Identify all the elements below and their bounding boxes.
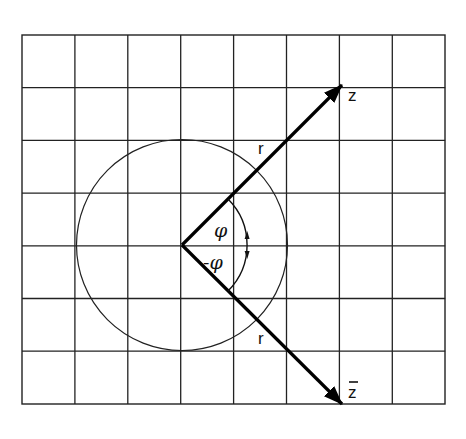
label-r-upper: r xyxy=(258,139,264,158)
label-minus-phi: -φ xyxy=(203,251,223,273)
angle-arc xyxy=(228,199,247,291)
vector-z-arrow xyxy=(182,85,342,245)
complex-plane-diagram: z z r r φ -φ xyxy=(0,0,466,439)
label-z-conjugate: z xyxy=(348,383,357,402)
grid xyxy=(22,35,445,404)
label-r-lower: r xyxy=(258,329,264,348)
label-z: z xyxy=(348,86,357,105)
label-phi: φ xyxy=(214,219,228,241)
